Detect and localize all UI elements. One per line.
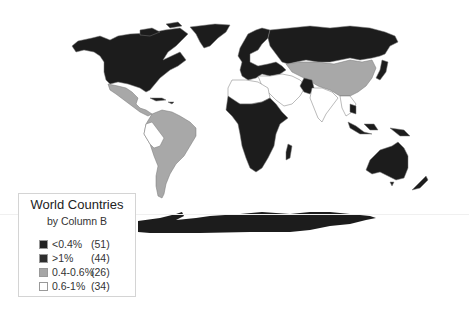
legend-label: 0.4-0.6% xyxy=(52,266,94,278)
legend-count: (34) xyxy=(91,280,110,292)
region-north-america[interactable] xyxy=(72,28,188,92)
legend-count: (51) xyxy=(91,238,110,250)
swatch-gray-icon xyxy=(39,268,48,277)
map-legend: World Countries by Column B <0.4% (51) >… xyxy=(18,193,136,297)
region-vietnam[interactable] xyxy=(350,104,356,114)
region-greenland[interactable] xyxy=(190,24,230,48)
region-australia[interactable] xyxy=(366,142,408,180)
region-madagascar[interactable] xyxy=(286,144,292,160)
legend-count: (26) xyxy=(91,266,110,278)
swatch-white-icon xyxy=(39,282,48,291)
legend-label: <0.4% xyxy=(52,238,82,250)
swatch-dark-icon xyxy=(39,254,48,263)
region-new-zealand[interactable] xyxy=(412,176,428,190)
legend-count: (44) xyxy=(91,252,110,264)
legend-item-0-4-0-6[interactable]: 0.4-0.6% (26) xyxy=(39,267,134,279)
legend-label: 0.6-1% xyxy=(52,280,85,292)
region-antarctica[interactable] xyxy=(138,212,376,233)
region-tasmania xyxy=(390,182,394,186)
region-japan[interactable] xyxy=(376,60,388,80)
legend-title: World Countries xyxy=(19,197,135,212)
region-indonesia[interactable] xyxy=(348,122,410,136)
legend-item-lt-0-4[interactable]: <0.4% (51) xyxy=(39,239,134,251)
region-caribbean xyxy=(150,98,174,104)
swatch-dark-icon xyxy=(39,240,48,249)
region-sub-saharan-africa[interactable] xyxy=(226,96,288,172)
legend-item-0-6-1[interactable]: 0.6-1% (34) xyxy=(39,281,134,293)
legend-label: >1% xyxy=(52,252,73,264)
legend-subtitle: by Column B xyxy=(19,215,135,227)
region-india[interactable] xyxy=(310,88,338,122)
region-russia[interactable] xyxy=(268,26,398,64)
legend-item-gt-1[interactable]: >1% (44) xyxy=(39,253,134,265)
